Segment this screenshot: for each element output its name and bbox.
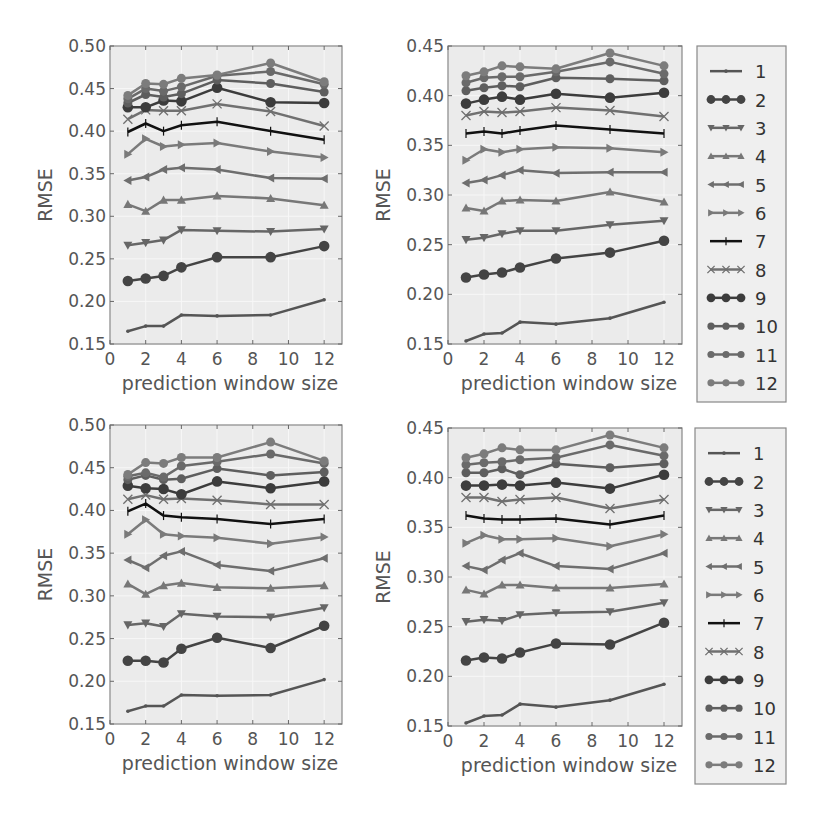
- marker-circle-icon: [737, 293, 746, 302]
- y-axis-title: RMSE: [34, 548, 56, 602]
- marker-circle-small-icon: [177, 474, 186, 483]
- marker-circle-icon: [659, 87, 670, 98]
- legend-label: 3: [753, 500, 764, 521]
- x-axis-title: prediction window size: [461, 754, 677, 776]
- marker-circle-icon: [735, 675, 744, 684]
- marker-point-icon: [608, 316, 612, 320]
- marker-point-icon: [608, 698, 612, 702]
- legend-label: 6: [755, 203, 766, 224]
- x-tick-label: 6: [212, 729, 223, 749]
- legend-label: 1: [755, 61, 766, 82]
- marker-point-icon: [500, 713, 504, 717]
- marker-circle-icon: [515, 647, 526, 658]
- marker-circle-small-icon: [720, 733, 727, 740]
- marker-circle-small-icon: [516, 82, 525, 91]
- marker-circle-small-icon: [552, 453, 561, 462]
- legend-top: 123456789101112: [697, 46, 786, 402]
- marker-circle-icon: [212, 252, 223, 263]
- marker-circle-small-icon: [735, 733, 742, 740]
- marker-circle-icon: [461, 655, 472, 666]
- marker-circle-small-icon: [660, 451, 669, 460]
- marker-point-icon: [500, 331, 504, 335]
- y-tick-label: 0.20: [406, 666, 444, 686]
- marker-point-icon: [518, 320, 522, 324]
- x-tick-label: 8: [247, 729, 258, 749]
- x-axis-title: prediction window size: [461, 372, 677, 394]
- x-tick-label: 12: [313, 349, 335, 369]
- legend-label: 8: [753, 642, 764, 663]
- marker-circle-icon: [319, 241, 330, 252]
- marker-circle-icon: [705, 477, 714, 486]
- marker-circle-small-icon: [320, 87, 329, 96]
- panel-top-left: 0246810120.150.200.250.300.350.400.450.5…: [34, 36, 342, 394]
- marker-circle-icon: [737, 95, 746, 104]
- legend-label: 10: [753, 698, 776, 719]
- marker-circle-icon: [497, 91, 508, 102]
- marker-point-icon: [724, 69, 728, 73]
- marker-circle-icon: [551, 638, 562, 649]
- x-tick-label: 2: [140, 349, 151, 369]
- marker-circle-small-icon: [735, 761, 742, 768]
- marker-point-icon: [126, 709, 130, 713]
- marker-circle-small-icon: [320, 467, 329, 476]
- y-tick-label: 0.15: [68, 334, 106, 354]
- marker-point-icon: [180, 693, 184, 697]
- marker-circle-icon: [479, 480, 490, 491]
- y-axis-title: RMSE: [372, 168, 394, 222]
- marker-circle-icon: [140, 655, 151, 666]
- marker-circle-icon: [212, 632, 223, 643]
- panel-bottom-right: 0246810120.150.200.250.300.350.400.45pre…: [372, 418, 682, 776]
- x-tick-label: 2: [140, 729, 151, 749]
- y-axis-title: RMSE: [34, 168, 56, 222]
- marker-circle-small-icon: [480, 83, 489, 92]
- marker-circle-small-icon: [480, 468, 489, 477]
- x-tick-label: 12: [313, 729, 335, 749]
- marker-circle-small-icon: [660, 69, 669, 78]
- marker-circle-small-icon: [606, 74, 615, 83]
- marker-circle-small-icon: [705, 705, 712, 712]
- marker-circle-small-icon: [516, 455, 525, 464]
- x-tick-label: 12: [653, 349, 675, 369]
- x-tick-label: 10: [278, 349, 300, 369]
- marker-point-icon: [662, 300, 666, 304]
- y-tick-label: 0.25: [68, 249, 106, 269]
- y-tick-label: 0.35: [68, 164, 106, 184]
- y-tick-label: 0.15: [406, 334, 444, 354]
- x-tick-label: 0: [105, 349, 116, 369]
- x-tick-label: 12: [653, 731, 675, 751]
- marker-point-icon: [322, 678, 326, 682]
- y-tick-label: 0.20: [68, 291, 106, 311]
- marker-circle-small-icon: [660, 61, 669, 70]
- marker-point-icon: [722, 451, 726, 455]
- marker-circle-small-icon: [707, 323, 714, 330]
- marker-circle-small-icon: [516, 62, 525, 71]
- marker-circle-icon: [265, 483, 276, 494]
- x-tick-label: 2: [479, 731, 490, 751]
- marker-circle-small-icon: [722, 379, 729, 386]
- marker-circle-icon: [659, 617, 670, 628]
- legend-label: 2: [755, 90, 766, 111]
- x-tick-label: 6: [212, 349, 223, 369]
- legend-label: 12: [753, 755, 776, 776]
- y-tick-label: 0.15: [68, 714, 106, 734]
- marker-circle-small-icon: [722, 351, 729, 358]
- marker-point-icon: [144, 324, 148, 328]
- marker-point-icon: [482, 714, 486, 718]
- y-tick-label: 0.15: [406, 716, 444, 736]
- marker-circle-icon: [497, 653, 508, 664]
- marker-circle-icon: [319, 476, 330, 487]
- marker-point-icon: [162, 704, 166, 708]
- marker-circle-icon: [158, 484, 169, 495]
- marker-circle-icon: [720, 477, 729, 486]
- x-tick-label: 6: [551, 349, 562, 369]
- marker-circle-small-icon: [159, 80, 168, 89]
- y-tick-label: 0.35: [406, 135, 444, 155]
- marker-point-icon: [144, 704, 148, 708]
- legend-label: 1: [753, 443, 764, 464]
- marker-circle-icon: [720, 675, 729, 684]
- marker-circle-small-icon: [722, 323, 729, 330]
- x-tick-label: 6: [551, 731, 562, 751]
- marker-circle-small-icon: [737, 323, 744, 330]
- marker-circle-small-icon: [213, 453, 222, 462]
- marker-circle-small-icon: [320, 77, 329, 86]
